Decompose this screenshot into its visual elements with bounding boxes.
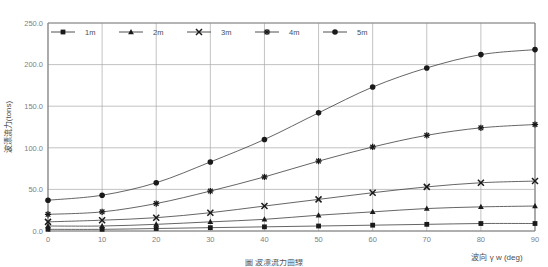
data-point-1m: [424, 222, 429, 227]
x-axis-tick-label: 30: [206, 235, 214, 244]
data-point-4m: [45, 211, 51, 217]
x-axis-tick-label: 40: [260, 235, 268, 244]
chart-figure: 0.050.0100.0150.0200.0250.00102030405060…: [0, 0, 548, 267]
data-point-4m: [261, 174, 267, 180]
legend-marker-1m: [61, 30, 66, 35]
data-point-1m: [533, 221, 538, 226]
data-point-4m: [99, 209, 105, 215]
data-point-5m: [424, 65, 430, 71]
plot-background: [48, 23, 535, 231]
data-point-5m: [208, 159, 214, 165]
x-axis-tick-label: 20: [152, 235, 160, 244]
data-point-1m: [262, 224, 267, 229]
x-axis-tick-label: 80: [477, 235, 485, 244]
legend-label-3m: 3m: [221, 28, 231, 37]
data-point-5m: [316, 110, 322, 116]
y-axis-title: 波漂流力(tons): [3, 100, 13, 153]
data-point-4m: [315, 158, 321, 164]
legend-label-4m: 4m: [289, 28, 299, 37]
y-axis-tick-label: 50.0: [28, 185, 43, 194]
data-point-4m: [478, 125, 484, 131]
data-point-4m: [370, 144, 376, 150]
x-axis-tick-label: 10: [98, 235, 106, 244]
drift-force-line-chart: 0.050.0100.0150.0200.0250.00102030405060…: [0, 0, 548, 267]
y-axis-tick-label: 250.0: [24, 19, 43, 28]
legend-label-1m: 1m: [85, 28, 95, 37]
y-axis-tick-label: 200.0: [24, 60, 43, 69]
figure-caption: 圖 波漂流力曲線: [0, 259, 548, 267]
data-point-1m: [370, 223, 375, 228]
data-point-5m: [370, 84, 376, 90]
data-point-5m: [262, 137, 268, 143]
legend-label-5m: 5m: [357, 28, 367, 37]
data-point-5m: [153, 180, 159, 186]
data-point-5m: [532, 47, 538, 53]
legend-marker-4m: [264, 29, 270, 35]
data-point-1m: [316, 224, 321, 229]
x-axis-tick-label: 50: [314, 235, 322, 244]
y-axis-tick-label: 100.0: [24, 144, 43, 153]
data-point-5m: [45, 197, 51, 203]
data-point-4m: [207, 188, 213, 194]
data-point-4m: [153, 200, 159, 206]
data-point-4m: [532, 121, 538, 127]
x-axis-tick-label: 70: [423, 235, 431, 244]
data-point-5m: [99, 192, 105, 198]
legend-label-2m: 2m: [153, 28, 163, 37]
data-point-1m: [154, 226, 159, 231]
y-axis-tick-label: 0.0: [33, 227, 43, 236]
legend-marker-5m: [332, 29, 338, 35]
data-point-1m: [208, 225, 213, 230]
data-point-5m: [478, 52, 484, 58]
x-axis-tick-label: 60: [368, 235, 376, 244]
figure-caption-strip: 圖 波漂流力曲線: [0, 259, 548, 267]
data-point-1m: [478, 221, 483, 226]
x-axis-tick-label: 0: [46, 235, 50, 244]
y-axis-tick-label: 150.0: [24, 102, 43, 111]
x-axis-tick-label: 90: [531, 235, 539, 244]
data-point-4m: [424, 132, 430, 138]
